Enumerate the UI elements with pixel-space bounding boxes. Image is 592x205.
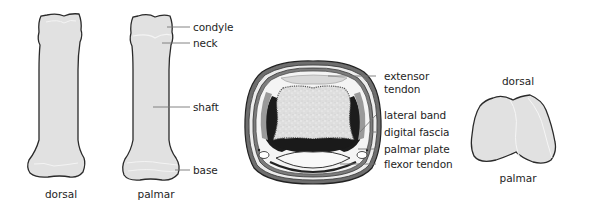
label-digital-fascia: digital fascia: [384, 126, 449, 138]
label-shaft: shaft: [193, 101, 219, 113]
label-lateral-band: lateral band: [384, 109, 446, 121]
phalanx-dorsal-drawing: [28, 14, 85, 177]
base-end-view-drawing: [471, 95, 555, 163]
label-tendon: tendon: [384, 83, 420, 95]
figure: dorsal palmar condyle neck shaft base ex…: [0, 0, 592, 205]
phalanx-palmar-drawing: [123, 15, 179, 180]
label-condyle: condyle: [193, 21, 233, 33]
label-extensor: extensor: [384, 70, 429, 82]
caption-dorsal: dorsal: [38, 188, 84, 200]
label-flexor-tendon: flexor tendon: [384, 158, 453, 170]
label-palmar-plate: palmar plate: [384, 143, 450, 155]
caption-palmar: palmar: [133, 188, 179, 200]
label-neck: neck: [193, 37, 218, 49]
end-view-palmar-label: palmar: [493, 172, 543, 184]
label-base: base: [193, 164, 218, 176]
cross-section-drawing: [245, 61, 381, 184]
end-view-dorsal-label: dorsal: [493, 75, 543, 87]
